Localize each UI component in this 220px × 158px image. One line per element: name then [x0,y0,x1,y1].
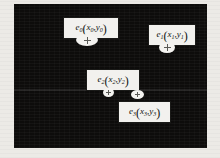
crosshair-vertical-icon [167,44,168,51]
point-label-e3: e3(x3,y3) [118,101,171,123]
page-background: e0(x0,y0) e1(x1,y1) e2(x2,y2) e3(x3,y3) [0,0,220,158]
point-marker-e1 [159,42,175,53]
crosshair-vertical-icon [87,37,88,44]
point-label-e1-x-subscript: 1 [171,34,174,40]
figure-canvas: e0(x0,y0) e1(x1,y1) e2(x2,y2) e3(x3,y3) [14,4,207,148]
point-marker-e3 [131,90,144,99]
point-label-e2-x-subscript: 2 [112,79,115,85]
point-label-e0-x-subscript: 0 [90,27,93,33]
point-marker-e0 [76,34,98,46]
point-label-e2: e2(x2,y2) [86,69,140,91]
crosshair-vertical-icon [108,90,109,95]
point-label-e3-x-subscript: 3 [144,111,147,117]
crosshair-vertical-icon [137,92,138,97]
point-marker-e2 [103,88,114,97]
